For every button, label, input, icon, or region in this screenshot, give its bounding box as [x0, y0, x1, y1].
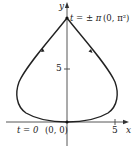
parametric-curve-figure: y x 5 5 t = ± π (0, π²) t = 0 (0, 0) — [0, 0, 139, 148]
origin-point-label: (0, 0) — [45, 126, 68, 135]
top-param-label: t = ± π — [70, 14, 101, 23]
top-point-label: (0, π²) — [103, 14, 129, 23]
y-tick-label: 5 — [56, 64, 62, 73]
x-axis-arrow-icon — [123, 120, 129, 124]
origin-point — [66, 121, 69, 124]
y-axis-label: y — [59, 2, 64, 11]
x-tick-label: 5 — [112, 126, 118, 135]
origin-param-label: t = 0 — [17, 126, 38, 135]
y-axis-arrow-icon — [65, 2, 69, 8]
x-axis-label: x — [126, 126, 131, 135]
cusp-point — [65, 16, 68, 19]
